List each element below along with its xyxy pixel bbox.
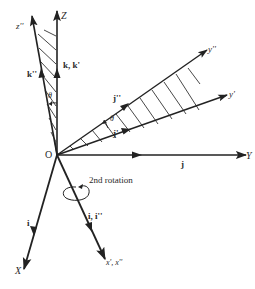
hatch-z-plane xyxy=(38,30,56,142)
z-double-prime-axis xyxy=(32,16,57,155)
hatch-y-plane xyxy=(70,68,200,150)
i-arrow xyxy=(30,226,37,236)
j-label: j xyxy=(180,159,184,169)
theta-label-upper: θ xyxy=(48,91,52,100)
y-prime-axis xyxy=(57,95,227,155)
rotation-diagram: Z z'' k, k' k'' θ j'' θ j' y'' y' O Y j … xyxy=(0,0,255,289)
k-kprime-label: k, k' xyxy=(63,60,80,70)
y-prime-label: y' xyxy=(228,89,236,99)
i-double-prime-arrow xyxy=(85,222,92,232)
rotation-arrow-tip xyxy=(78,184,83,189)
i-label: i xyxy=(27,218,30,228)
j-prime-label: j' xyxy=(112,128,119,138)
j-arrow xyxy=(132,152,142,159)
second-rotation-label: 2nd rotation xyxy=(89,175,133,185)
theta-label-right: θ xyxy=(110,114,114,123)
i-idouble-prime-label: i, i'' xyxy=(88,211,103,221)
x-prime-label: x', x'' xyxy=(105,258,123,267)
x-axis xyxy=(24,155,57,269)
k-double-prime-label: k'' xyxy=(27,69,37,79)
x-prime-axis xyxy=(57,155,105,259)
j-double-prime-label: j'' xyxy=(112,93,121,103)
y-axis-label: Y xyxy=(246,150,253,161)
k-arrow xyxy=(54,68,61,78)
x-axis-label: X xyxy=(14,265,22,276)
z-double-prime-label: z'' xyxy=(15,21,24,31)
origin-label: O xyxy=(45,149,52,160)
y-double-prime-label: y'' xyxy=(207,44,217,54)
z-axis-label: Z xyxy=(61,10,67,21)
